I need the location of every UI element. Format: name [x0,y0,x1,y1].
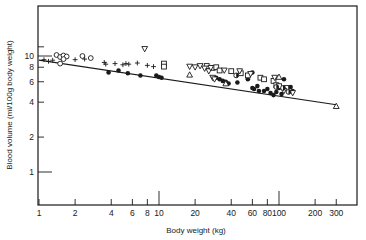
fit-line [39,60,336,105]
x-tick-label: 1 [37,208,42,218]
open-circle-marker [61,57,66,62]
filled-circle-marker [159,75,164,80]
data-points [42,47,340,109]
half-filled-circle-marker [286,90,291,95]
open-square-marker [262,77,267,82]
open-circle-marker [88,56,93,61]
filled-circle-marker [126,71,131,76]
open-triangle-down-marker [187,64,193,69]
half-filled-circle-marker [234,73,239,78]
half-filled-circle-marker [274,85,279,90]
open-square-marker [229,69,234,74]
filled-circle-marker [138,73,143,78]
half-filled-circle-marker [281,86,286,91]
x-tick-label: 300 [329,208,343,218]
x-tick-label: 200 [308,208,322,218]
open-triangle-down-marker [142,47,148,52]
plus-marker [73,57,78,62]
x-tick-label: 60 [248,208,258,218]
x-tick-label: 80 [263,208,273,218]
blood-volume-chart: 124681020406080100200300 1246810 Body we… [0,0,366,240]
y-tick-label: 10 [25,51,35,61]
open-triangle-up-marker [187,72,193,77]
x-tick-label: 4 [109,208,114,218]
plus-marker [113,61,118,66]
x-tick-label: 40 [227,208,237,218]
y-tick-label: 6 [29,77,34,87]
filled-circle-marker [265,87,270,92]
plus-marker [135,61,140,66]
plus-marker [151,64,156,69]
filled-circle-marker [106,70,111,75]
x-tick-label: 10 [154,208,164,218]
plus-marker [124,61,129,66]
y-axis-title: Blood volume (ml/100g body weight) [5,40,14,170]
open-circle-marker [80,54,85,59]
x-tick-label: 8 [145,208,150,218]
y-tick-label: 8 [29,62,34,72]
filled-circle-marker [274,90,279,95]
x-tick-label: 100 [272,208,286,218]
open-circle-marker [58,61,63,66]
x-tick-label: 20 [190,208,200,218]
open-square-marker [162,64,167,69]
plot-frame [38,6,357,205]
filled-circle-marker [255,84,260,89]
filled-circle-marker [116,68,121,73]
y-tick-label: 4 [29,97,34,107]
x-axis-title: Body weight (kg) [166,226,226,235]
x-tick-label: 6 [130,208,135,218]
plus-marker [145,63,150,68]
open-triangle-down-marker [192,65,198,70]
x-tick-label: 2 [73,208,78,218]
filled-circle-marker [235,80,240,85]
plus-marker [126,62,131,67]
plus-marker [120,62,125,67]
y-tick-label: 1 [29,167,34,177]
plus-marker [46,59,51,64]
filled-circle-marker [282,77,287,82]
y-tick-label: 2 [29,132,34,142]
filled-circle-marker [257,89,262,94]
regression-line [39,60,336,105]
